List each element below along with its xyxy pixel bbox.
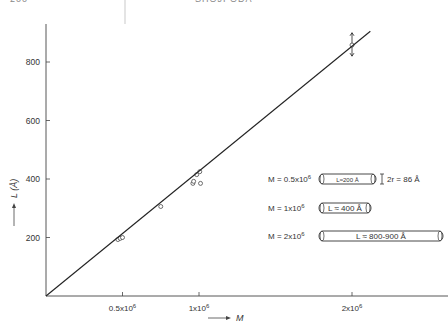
rod-annotations: M = 0.5x106L≈200 Å2r = 86 ÅM = 1x106L ≈ … [268,174,443,241]
data-point [159,204,163,208]
rod-length-label: L ≈ 400 Å [328,204,363,213]
data-series [46,31,370,296]
y-tick-label: 600 [26,116,40,126]
rod-annotation: M = 1x106L ≈ 400 Å [268,203,371,213]
rod-annotation: M = 0.5x106L≈200 Å2r = 86 Å [268,174,420,184]
axes [46,24,448,296]
mass-label: M = 2x106 [268,231,305,241]
rod-annotation: M = 2x106L ≈ 800-900 Å [268,231,443,241]
data-point [192,179,196,183]
x-tick-label: 1x106 [189,303,210,313]
rod-length-label: L ≈ 800-900 Å [356,232,407,241]
x-axis-label: M [236,313,244,323]
fit-line [46,31,370,296]
mass-label: M = 0.5x106 [268,174,312,184]
mass-label: M = 1x106 [268,203,305,213]
y-axis-arrowhead [12,203,16,208]
axis-labels: ML (Å) [9,179,244,323]
x-tick-label: 0.5x106 [109,303,137,313]
rod-length-label: L≈200 Å [336,177,358,183]
y-tick-label: 400 [26,174,40,184]
y-tick-label: 200 [26,233,40,243]
data-point [199,181,203,185]
chart: 0.5x1061x1062x106200400600800 ML (Å) M =… [0,0,448,327]
y-axis-label-group: L (Å) [9,179,19,226]
diameter-label: 2r = 86 Å [387,175,420,184]
y-axis-label: L (Å) [9,179,19,198]
x-axis-arrowhead [226,316,231,320]
y-tick-label: 800 [26,57,40,67]
data-point [121,236,125,240]
x-tick-label: 2x106 [342,303,363,313]
